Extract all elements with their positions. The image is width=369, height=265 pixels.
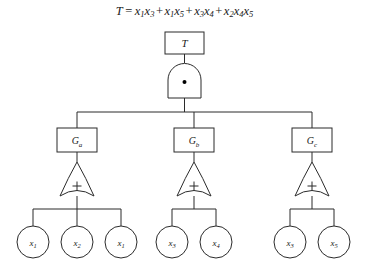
or-gate-shape-a[interactable] — [60, 162, 94, 196]
top-event-label: T — [181, 37, 188, 49]
and-gate-dot-icon — [183, 80, 187, 84]
or-gate-shape-c[interactable] — [295, 162, 329, 196]
or-gate-shape-b[interactable] — [177, 162, 211, 196]
fault-tree-diagram: T=x1x3+x1x5+x3x4+x2x4x5 — [0, 0, 369, 265]
tree-canvas: T Ga Gb Gc x1 x2 x1 x3 — [0, 0, 369, 265]
